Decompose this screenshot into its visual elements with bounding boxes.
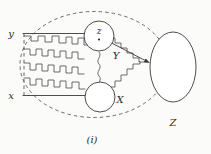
node-X-circle — [85, 82, 115, 112]
label-z: z — [96, 26, 102, 36]
node-Z-ellipse — [150, 32, 196, 102]
label-Z: Z — [169, 117, 178, 128]
node-z-center-dot — [98, 38, 100, 40]
staircase-path-mid-left — [24, 49, 84, 59]
label-x: x — [8, 90, 14, 101]
diagram-canvas: y x z X Y Z (i) — [0, 0, 211, 154]
label-y: y — [7, 28, 14, 39]
staircase-path-bottom-left — [24, 78, 85, 89]
staircase-path-lower-left — [24, 63, 84, 74]
label-X: X — [115, 94, 124, 105]
staircase-path-upper-left — [24, 36, 90, 45]
figure-container: y x z X Y Z (i) — [0, 0, 211, 154]
label-Y: Y — [113, 50, 121, 61]
figure-caption: (i) — [86, 134, 97, 145]
